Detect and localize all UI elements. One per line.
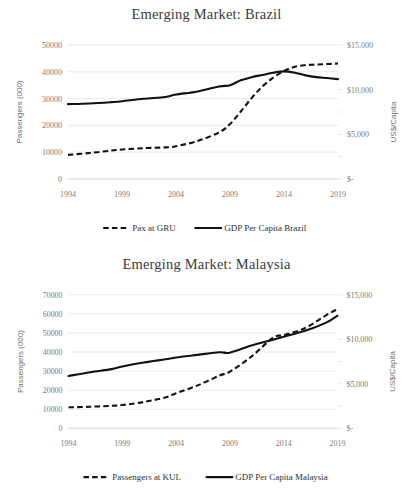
series-line-gdp-per-capita-malaysia — [69, 316, 338, 376]
x-axis-tick-label: 1999 — [114, 190, 130, 199]
legend-item[interactable]: Pax at GRU — [103, 223, 176, 233]
x-axis-tick-label: 2009 — [222, 439, 238, 448]
y-axis-tick-label: 0 — [59, 424, 63, 433]
legend-label: GDP Per Capita Brazil — [224, 223, 306, 233]
y-axis-tick-label: 50000 — [43, 329, 63, 338]
x-axis-tick-label: 2004 — [168, 190, 184, 199]
y-axis-title: Passengers (000) — [16, 330, 25, 393]
x-axis-tick-label: 1999 — [114, 439, 130, 448]
y2-axis-tick-label: $15,000 — [347, 41, 373, 50]
series-line-pax-at-gru — [68, 63, 338, 154]
y2-axis-tick-label: $10,000 — [346, 335, 372, 344]
line-chart-brazil: 01000020000300004000050000$-$5,000$10,00… — [0, 0, 413, 250]
x-axis-tick-label: 2019 — [330, 439, 346, 448]
y2-axis-tick-label: $10,000 — [347, 86, 373, 95]
x-axis-tick-label: 2004 — [168, 439, 184, 448]
y2-axis-title: US$/Capita — [389, 101, 398, 142]
series-line-gdp-per-capita-brazil — [68, 71, 338, 104]
y-axis-tick-label: 50000 — [42, 41, 62, 50]
y2-axis-tick-label: $- — [346, 424, 353, 433]
y-axis-tick-label: 70000 — [43, 291, 63, 300]
x-axis-tick-label: 1994 — [61, 439, 77, 448]
x-axis-tick-label: 2009 — [222, 190, 238, 199]
y2-axis-tick-label: $15,000 — [346, 291, 372, 300]
legend-item[interactable]: GDP Per Capita Malaysia — [207, 472, 328, 482]
y2-axis-tick-label: $- — [347, 175, 354, 184]
y2-axis-title: US$/Capita — [388, 351, 397, 392]
chart-panel-brazil: Emerging Market: Brazil 0100002000030000… — [0, 0, 413, 250]
legend-label: Passengers at KUL — [112, 472, 181, 482]
y-axis-tick-label: 60000 — [43, 310, 63, 319]
x-axis-tick-label: 1994 — [60, 190, 76, 199]
y-axis-tick-label: 20000 — [43, 386, 63, 395]
legend-label: GDP Per Capita Malaysia — [235, 472, 327, 482]
legend-label: Pax at GRU — [132, 223, 176, 233]
y-axis-tick-label: 0 — [58, 175, 62, 184]
y-axis-tick-label: 10000 — [42, 148, 62, 157]
y-axis-tick-label: 30000 — [42, 95, 62, 104]
x-axis-tick-label: 2014 — [276, 439, 292, 448]
y2-axis-tick-label: $5,000 — [347, 130, 369, 139]
legend-item[interactable]: Passengers at KUL — [83, 472, 181, 482]
line-chart-malaysia: 010000200003000040000500006000070000$-$5… — [0, 250, 413, 500]
x-axis-tick-label: 2014 — [276, 190, 292, 199]
y-axis-tick-label: 20000 — [42, 121, 62, 130]
y-axis-tick-label: 10000 — [43, 405, 63, 414]
series-line-passengers-at-kul — [69, 309, 338, 407]
y-axis-tick-label: 40000 — [43, 348, 63, 357]
y-axis-title: Passengers (000) — [15, 80, 24, 143]
legend-item[interactable]: GDP Per Capita Brazil — [195, 223, 306, 233]
x-axis-tick-label: 2019 — [330, 190, 346, 199]
y-axis-tick-label: 40000 — [42, 68, 62, 77]
y-axis-tick-label: 30000 — [43, 367, 63, 376]
chart-panel-malaysia: Emerging Market: Malaysia 01000020000300… — [0, 250, 413, 501]
y2-axis-tick-label: $5,000 — [346, 380, 368, 389]
